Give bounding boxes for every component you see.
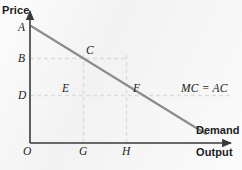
label-point-f: F (133, 82, 140, 94)
demand-curve-label: Demand (196, 124, 239, 136)
label-point-g: G (79, 145, 87, 157)
label-point-e: E (62, 82, 69, 94)
label-point-b: B (18, 52, 25, 64)
economics-diagram: Price Output Demand MC = AC A B D C E F … (0, 0, 242, 170)
y-axis-title: Price (2, 4, 29, 16)
demand-curve (31, 26, 206, 134)
mc-ac-label: MC = AC (181, 82, 228, 94)
label-point-a: A (18, 21, 25, 33)
label-point-d: D (18, 89, 26, 101)
x-axis-title: Output (196, 146, 233, 158)
label-point-h: H (122, 145, 130, 157)
label-origin: O (23, 145, 31, 157)
label-point-c: C (86, 44, 94, 56)
